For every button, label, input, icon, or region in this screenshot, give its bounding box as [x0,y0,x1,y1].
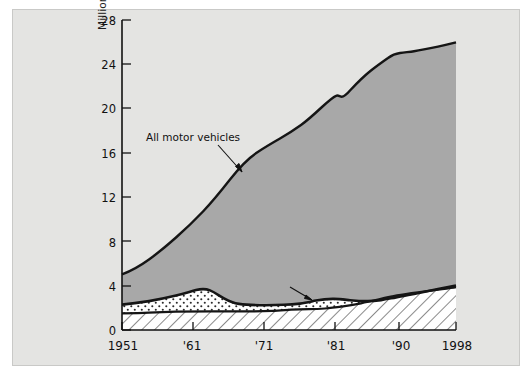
series-private-cars [122,42,456,330]
chart-plot-area [0,0,532,375]
chart-page: Million vehicles 28 24 20 16 12 8 4 0 19… [0,0,532,375]
